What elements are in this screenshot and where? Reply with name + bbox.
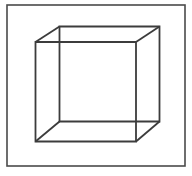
figure-canvas <box>0 0 192 176</box>
necker-cube-figure <box>0 0 192 176</box>
